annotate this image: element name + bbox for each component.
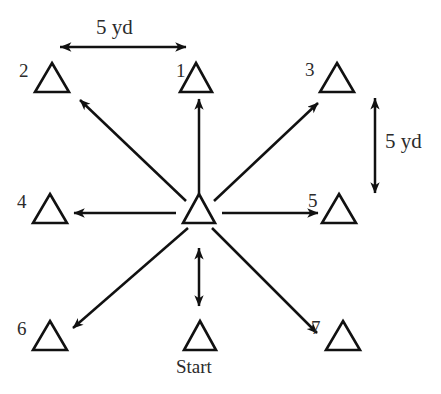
start-cone-label: Start [176,357,212,376]
arrow-center-to-3 [214,103,318,201]
cone-4-label: 4 [17,192,27,211]
dimension-arrow-group [60,47,375,193]
cone-5-label: 5 [308,191,318,210]
cone-3-triangle [320,63,354,92]
cone-3-label: 3 [305,60,315,79]
cone-5-triangle [322,194,356,223]
diagram-canvas: 1 2 3 4 5 6 7 Start 5 yd 5 yd [0,0,441,394]
start-cone-triangle [184,321,216,350]
diagram-svg [0,0,441,394]
dim-horizontal-label: 5 yd [96,17,133,38]
arrow-center-to-7 [212,228,317,333]
cone-2-label: 2 [19,61,29,80]
cone-2-triangle [35,63,69,92]
arrow-center-to-2 [80,100,186,201]
arrow-center-to-6 [73,228,188,328]
dim-vertical-label: 5 yd [385,131,422,152]
cone-1-label: 1 [176,61,186,80]
cone-6-label: 6 [17,319,27,338]
center-cone-triangle [183,194,215,223]
cone-7-label: 7 [311,318,321,337]
arrow-group [73,99,318,333]
cone-6-triangle [33,321,67,350]
cone-4-triangle [33,194,67,223]
cone-7-triangle [326,321,360,350]
